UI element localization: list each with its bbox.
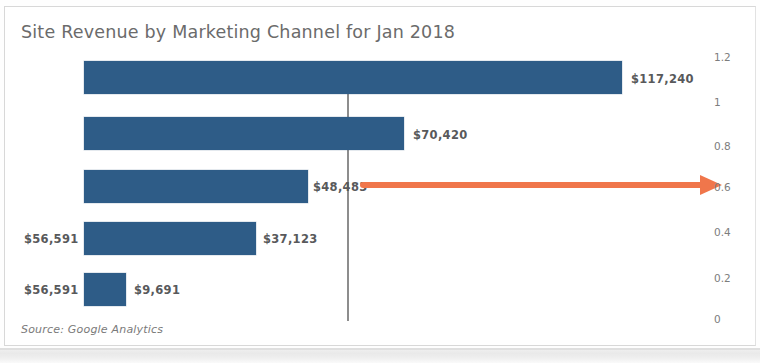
bar-1-value-label: $117,240 <box>631 72 694 86</box>
bar-1 <box>84 61 622 94</box>
plot-area: $117,240 $70,420 $48,483 $56,591 $37,123… <box>0 0 760 363</box>
annotation-arrow <box>360 175 738 195</box>
axis-tick-2: 0.8 <box>714 140 748 152</box>
bar-4-left-label: $56,591 <box>24 232 78 246</box>
bar-5-left-label: $56,591 <box>24 283 78 297</box>
axis-tick-1: 1 <box>714 96 748 108</box>
bar-5-value-label: $9,691 <box>134 283 180 297</box>
chart-screenshot: Site Revenue by Marketing Channel for Ja… <box>0 0 760 363</box>
axis-tick-3: 0.6 <box>714 181 748 193</box>
arrow-line <box>360 182 705 188</box>
bar-2 <box>84 117 404 150</box>
axis-tick-0: 1.2 <box>714 51 748 63</box>
bar-4-value-label: $37,123 <box>263 232 317 246</box>
source-note: Source: Google Analytics <box>21 323 163 336</box>
axis-tick-5: 0.2 <box>714 272 748 284</box>
bar-2-value-label: $70,420 <box>413 128 467 142</box>
bar-4 <box>84 222 256 255</box>
axis-tick-6: 0 <box>714 313 748 325</box>
axis-tick-4: 0.4 <box>714 226 748 238</box>
scan-edge <box>0 348 760 363</box>
bar-5 <box>84 273 126 306</box>
secondary-y-axis: 1.2 1 0.8 0.6 0.4 0.2 0 <box>714 0 760 363</box>
bar-3 <box>84 170 308 203</box>
